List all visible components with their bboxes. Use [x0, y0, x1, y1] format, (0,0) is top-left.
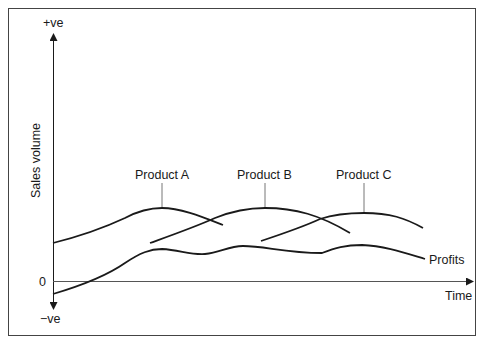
y-axis-title: Sales volume — [29, 123, 43, 198]
product-life-cycle-diagram: +ve 0 −ve Sales volume Time Product A Pr… — [0, 0, 490, 345]
y-axis-zero-label: 0 — [39, 275, 46, 289]
curve-product-b — [150, 208, 350, 243]
label-product-c: Product C — [336, 168, 392, 182]
label-product-b: Product B — [237, 168, 292, 182]
y-axis-negative-label: −ve — [40, 312, 61, 326]
y-axis-positive-label: +ve — [43, 16, 64, 30]
x-axis-title: Time — [445, 289, 472, 303]
curve-profits — [53, 245, 425, 294]
curve-product-c — [261, 213, 423, 241]
label-profits: Profits — [429, 253, 464, 267]
label-product-a: Product A — [135, 168, 190, 182]
